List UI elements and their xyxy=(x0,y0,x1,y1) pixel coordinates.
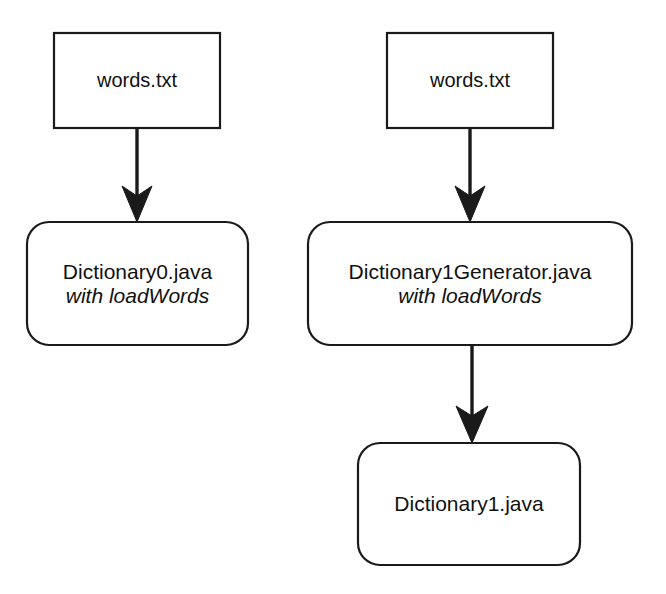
diagram-canvas: words.txt words.txt Dictionary0.java wit… xyxy=(0,0,666,594)
edge-dictionary1generator-to-dictionary1 xyxy=(456,345,488,443)
node-shape-dictionary1[interactable] xyxy=(358,443,580,565)
node-shape-words-txt-right[interactable] xyxy=(387,33,553,128)
edge-words-to-dictionary0 xyxy=(122,128,152,222)
node-shape-words-txt-left[interactable] xyxy=(54,33,220,128)
edge-words-to-dictionary1generator xyxy=(455,128,485,222)
node-shape-dictionary1generator[interactable] xyxy=(308,222,632,345)
diagram-shapes-layer xyxy=(0,0,666,594)
node-shape-dictionary0[interactable] xyxy=(27,222,248,345)
